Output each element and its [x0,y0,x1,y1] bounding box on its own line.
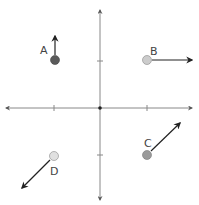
point-c-group: C [143,123,181,160]
point-a-group: A [40,36,60,65]
label-d: D [50,165,58,178]
label-c: C [144,137,152,150]
point-d [50,152,59,161]
point-a [51,56,60,65]
origin-dot [98,106,102,110]
axes [6,10,192,200]
vector-d-arrow [22,160,50,188]
point-b-group: B [143,45,193,65]
vector-c-arrow [151,123,180,151]
coordinate-diagram: A B C D [0,0,199,205]
label-b: B [150,45,158,58]
label-a: A [40,44,48,57]
point-c [143,151,152,160]
point-d-group: D [22,152,59,189]
